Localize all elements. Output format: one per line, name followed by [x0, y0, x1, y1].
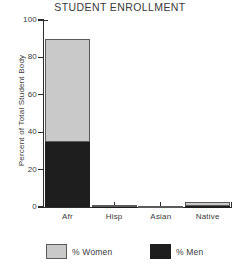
legend-label-women: % Women	[72, 247, 112, 257]
y-axis-tick-label: 60	[28, 90, 37, 99]
y-axis-tick	[38, 19, 44, 20]
bar-segment-women	[185, 202, 230, 206]
y-axis-top-cap	[43, 20, 48, 21]
legend-swatch-women	[46, 244, 67, 259]
legend-label-men: % Men	[176, 247, 203, 257]
bar-segment-women	[138, 206, 183, 208]
y-axis-tick-label: 100	[23, 15, 37, 24]
y-axis-tick	[38, 57, 44, 58]
y-axis-tick	[38, 206, 44, 207]
y-axis-tick-label: 20	[28, 165, 37, 174]
chart-title: STUDENT ENROLLMENT	[0, 1, 240, 13]
bar-segment-men	[45, 142, 90, 207]
y-axis-tick	[38, 94, 44, 95]
bar-segment-women	[45, 39, 90, 142]
y-axis-tick	[38, 169, 44, 170]
x-axis-tick-label: Native	[178, 212, 238, 221]
legend-swatch-men	[150, 244, 171, 259]
x-axis-right-cap	[231, 202, 232, 207]
chart-figure: STUDENT ENROLLMENT Percent of Total Stud…	[0, 0, 240, 268]
chart-legend: % Women % Men	[0, 243, 240, 265]
y-axis-tick-label: 40	[28, 127, 37, 136]
y-axis-tick-label: 0	[32, 202, 37, 211]
y-axis-label: Percent of Total Student Body	[17, 26, 26, 196]
y-axis-tick	[38, 132, 44, 133]
bar-segment-women	[92, 205, 137, 207]
y-axis-tick-label: 80	[28, 52, 37, 61]
bar-segment-men	[185, 206, 230, 208]
